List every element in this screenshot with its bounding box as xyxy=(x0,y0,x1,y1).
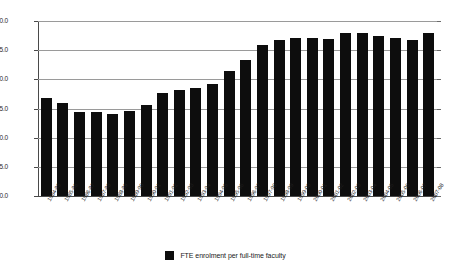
bar-slot xyxy=(357,21,368,196)
bar-slot xyxy=(174,21,185,196)
bar xyxy=(174,90,185,196)
bar xyxy=(357,33,368,196)
bar-slot xyxy=(224,21,235,196)
bar xyxy=(323,39,334,197)
bar-series xyxy=(38,21,437,196)
bar-slot xyxy=(107,21,118,196)
bar xyxy=(157,93,168,196)
bar-slot xyxy=(274,21,285,196)
bar xyxy=(423,33,434,196)
bar-slot xyxy=(57,21,68,196)
bar xyxy=(274,40,285,196)
bar-slot xyxy=(407,21,418,196)
y-axis-tick-label: 0.0 xyxy=(0,192,8,199)
y-axis-tick-right xyxy=(437,138,441,139)
bar-slot xyxy=(373,21,384,196)
bar xyxy=(290,38,301,196)
bar-slot xyxy=(390,21,401,196)
y-axis-tick-right xyxy=(437,50,441,51)
bar-slot xyxy=(307,21,318,196)
legend-swatch-icon xyxy=(165,251,174,260)
bar xyxy=(340,33,351,196)
y-axis-tick-label: 10.0 xyxy=(0,134,8,141)
y-axis-tick-label: 25.0 xyxy=(0,46,8,53)
bar-slot xyxy=(207,21,218,196)
bar-slot xyxy=(423,21,434,196)
bar xyxy=(41,98,52,196)
y-axis-tick-label: 20.0 xyxy=(0,75,8,82)
bar xyxy=(207,84,218,196)
x-axis-labels: 1984-851985-861986-871987-881988-891989-… xyxy=(38,197,438,247)
bar-slot xyxy=(257,21,268,196)
y-axis-tick-label: 30.0 xyxy=(0,17,8,24)
bar-slot xyxy=(74,21,85,196)
bar xyxy=(307,38,318,196)
legend-label: FTE enrolment per full-time faculty xyxy=(180,252,285,259)
bar xyxy=(224,71,235,196)
y-axis-tick-right xyxy=(437,109,441,110)
bar xyxy=(240,60,251,196)
chart-legend: FTE enrolment per full-time faculty xyxy=(0,251,451,260)
bar-slot xyxy=(323,21,334,196)
bar-slot xyxy=(41,21,52,196)
bar-slot xyxy=(340,21,351,196)
bar-slot xyxy=(157,21,168,196)
bar xyxy=(390,38,401,196)
bar xyxy=(190,88,201,196)
bar xyxy=(373,36,384,196)
bar-slot xyxy=(190,21,201,196)
bar-slot xyxy=(290,21,301,196)
bar xyxy=(141,105,152,196)
y-axis-tick-right xyxy=(437,79,441,80)
y-axis-tick-right xyxy=(437,167,441,168)
bar-slot xyxy=(141,21,152,196)
plot-area xyxy=(38,21,437,196)
bar-chart: 0.05.010.015.020.025.030.0 1984-851985-8… xyxy=(0,0,451,272)
bar-slot xyxy=(124,21,135,196)
bar-slot xyxy=(240,21,251,196)
bar xyxy=(57,103,68,196)
bar xyxy=(407,40,418,196)
bar-slot xyxy=(91,21,102,196)
bar xyxy=(257,45,268,196)
y-axis-tick-right xyxy=(437,21,441,22)
y-axis-tick-label: 15.0 xyxy=(0,105,8,112)
y-axis-tick-label: 5.0 xyxy=(0,163,8,170)
